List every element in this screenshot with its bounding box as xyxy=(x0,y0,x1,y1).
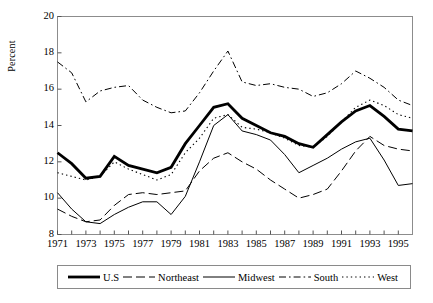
chart-figure: Percent 8101214161820 197119731975197719… xyxy=(0,0,433,303)
legend-label: U.S xyxy=(101,272,122,283)
legend-label: West xyxy=(375,272,401,283)
legend-item-northeast[interactable]: Northeast xyxy=(122,272,202,283)
chart-legend: U.SNortheastMidwestSouthWest xyxy=(57,265,411,289)
legend-swatch-northeast xyxy=(122,272,156,282)
legend-label: Midwest xyxy=(236,272,278,283)
legend-swatch-us xyxy=(67,272,101,282)
series-line-midwest xyxy=(58,115,413,224)
series-line-northeast xyxy=(58,136,413,221)
legend-item-south[interactable]: South xyxy=(278,272,342,283)
legend-label: South xyxy=(312,272,342,283)
legend-swatch-south xyxy=(278,272,312,282)
series-line-south xyxy=(58,51,413,113)
legend-swatch-west xyxy=(341,272,375,282)
legend-item-west[interactable]: West xyxy=(341,272,401,283)
legend-label: Northeast xyxy=(156,272,202,283)
legend-item-midwest[interactable]: Midwest xyxy=(202,272,278,283)
legend-item-us[interactable]: U.S xyxy=(67,272,122,283)
plot-frame xyxy=(58,17,413,235)
legend-swatch-midwest xyxy=(202,272,236,282)
plot-area xyxy=(0,0,433,303)
